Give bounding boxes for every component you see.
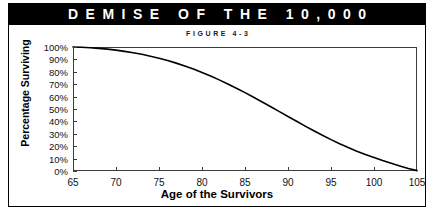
y-tick-mark [73,146,77,147]
x-tick-mark [159,167,160,171]
x-tick-mark [331,167,332,171]
y-tick-label: 80% [49,66,68,77]
x-tick-mark [202,167,203,171]
x-tick-label: 80 [196,177,207,188]
x-tick-label: 70 [110,177,121,188]
y-tick-label: 20% [49,141,68,152]
y-tick-mark [73,84,77,85]
y-tick-mark [73,171,77,172]
x-tick-label: 85 [239,177,250,188]
y-tick-label: 50% [49,104,68,115]
y-tick-label: 70% [49,79,68,90]
y-tick-label: 60% [49,91,68,102]
x-tick-label: 75 [153,177,164,188]
y-axis-title: Percentage Surviving [19,33,31,153]
survival-curve-line [73,47,417,171]
y-tick-mark [73,97,77,98]
y-tick-mark [73,159,77,160]
y-tick-mark [73,47,77,48]
figure-page: DEMISE OF THE 10,000 FIGURE 4-3 Percenta… [0,0,434,213]
y-tick-label: 40% [49,116,68,127]
x-axis-title: Age of the Survivors [9,188,425,200]
x-tick-mark [288,167,289,171]
y-tick-mark [73,59,77,60]
survival-curve-svg [73,47,417,171]
y-tick-label: 10% [49,153,68,164]
x-tick-mark [116,167,117,171]
figure-subtitle: FIGURE 4-3 [9,30,425,37]
y-tick-mark [73,109,77,110]
x-tick-mark [374,167,375,171]
page-title: DEMISE OF THE 10,000 [60,7,373,21]
x-tick-label: 100 [366,177,383,188]
title-banner: DEMISE OF THE 10,000 [8,3,426,24]
x-tick-label: 95 [325,177,336,188]
y-tick-label: 90% [49,54,68,65]
figure-card: FIGURE 4-3 Percentage Surviving Age of t… [8,24,426,207]
y-tick-mark [73,72,77,73]
x-tick-label: 65 [67,177,78,188]
x-tick-label: 105 [409,177,426,188]
y-tick-label: 0% [54,166,68,177]
y-tick-label: 30% [49,128,68,139]
y-tick-mark [73,121,77,122]
y-tick-label: 100% [44,42,68,53]
y-tick-mark [73,134,77,135]
x-tick-label: 90 [282,177,293,188]
x-tick-mark [245,167,246,171]
plot-area: 0%10%20%30%40%50%60%70%80%90%100%6570758… [73,47,417,171]
